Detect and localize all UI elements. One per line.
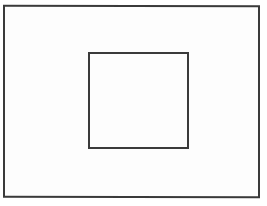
inner-square <box>88 52 189 149</box>
